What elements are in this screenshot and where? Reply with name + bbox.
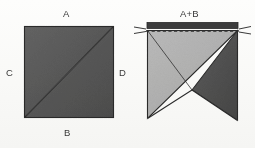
right-joined-unit <box>134 23 251 128</box>
figure-canvas: A B C D A+B <box>0 0 255 148</box>
edge-label-a-plus-b: A+B <box>180 9 199 19</box>
edge-label-d: D <box>119 68 126 78</box>
top-seam-allowance-strip <box>147 23 238 29</box>
sewing-diagram <box>0 0 255 148</box>
edge-label-a: A <box>63 9 70 19</box>
right-thread-tick-icon <box>239 27 251 35</box>
edge-label-b: B <box>64 128 71 138</box>
edge-label-c: C <box>6 68 13 78</box>
left-thread-tick-icon <box>134 27 146 34</box>
left-square-unit <box>25 27 114 118</box>
